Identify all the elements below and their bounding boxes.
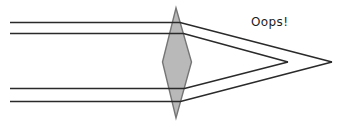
oops-label: Oops!	[251, 15, 288, 29]
top-inner-ray	[10, 34, 288, 63]
lens-aberration-diagram: Oops!	[0, 0, 338, 124]
